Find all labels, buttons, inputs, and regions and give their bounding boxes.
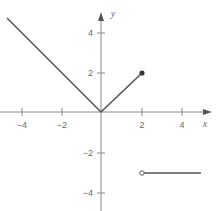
y-tick-label: −4	[83, 188, 93, 198]
y-tick-label: 2	[88, 68, 93, 78]
series-left-line	[7, 18, 101, 112]
open-endpoint-circle	[140, 171, 144, 175]
y-tick-label: −2	[83, 148, 93, 158]
closed-endpoint-dot	[139, 70, 144, 75]
function-graph: −4 −2 2 4 4 2 −2 −4 x y	[0, 0, 216, 211]
series-middle-line	[101, 73, 142, 112]
x-tick-label: 2	[139, 120, 144, 130]
x-axis-label: x	[202, 118, 208, 129]
x-axis-arrow-icon	[203, 109, 212, 115]
x-tick-label: −4	[17, 120, 27, 130]
x-tick-label: 4	[179, 120, 184, 130]
y-tick-label: 4	[88, 28, 93, 38]
x-tick-label: −2	[57, 120, 67, 130]
y-axis-label: y	[110, 8, 116, 19]
y-axis-arrow-icon	[98, 12, 104, 21]
